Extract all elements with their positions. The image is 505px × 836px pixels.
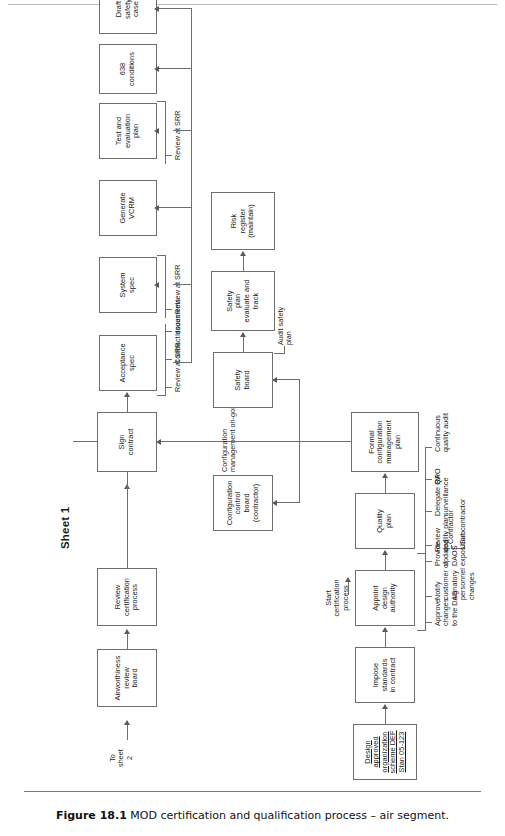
edge-airworthiness-to-reviewcert (127, 633, 128, 649)
node-label: Acceptance spec (119, 343, 136, 382)
edge-formalcm-bus-right (299, 380, 300, 442)
node-draft-safety-case[interactable]: Draft safety case (99, 0, 157, 34)
node-638-conditions[interactable]: 638 conditions (99, 44, 157, 94)
node-generate-vcrm[interactable]: Generate VCRM (99, 180, 157, 236)
arrowhead (124, 720, 130, 725)
node-label: Generate VCRM (119, 192, 136, 223)
tick-review-quality-plan (425, 545, 432, 546)
annotation-issues: Issues (174, 315, 182, 336)
node-label: 638 conditions (119, 52, 136, 86)
node-review-certification-process[interactable]: Review certification process (97, 568, 157, 626)
tick-review-srr-1 (165, 387, 172, 388)
annotation-review-at-srr-2: Review at SRR (174, 265, 182, 314)
edge-bus-to-safetyboard (277, 379, 300, 380)
bracket-system-spec-stub (157, 255, 166, 256)
figure-caption-text: MOD certification and qualification proc… (130, 809, 449, 822)
node-label: Quality plan (376, 509, 393, 532)
node-appoint-design-authority[interactable]: Appoint design authority (355, 570, 415, 626)
arrowhead (124, 392, 130, 397)
node-label: System spec (119, 273, 136, 298)
route-up-draft-safety (159, 8, 192, 9)
bracket-acceptance-stub (157, 395, 166, 396)
route-acceptance-down (173, 362, 192, 363)
tick-approve-changes (425, 622, 432, 623)
arrowhead (154, 66, 159, 72)
node-quality-plan[interactable]: Quality plan (355, 493, 415, 549)
node-acceptance-spec[interactable]: Acceptance spec (99, 335, 157, 391)
edge-design-to-impose (385, 708, 386, 724)
leader-audit-safety-plan-h (284, 346, 285, 354)
node-safety-plan-evaluate-track[interactable]: Safety plan evaluate and track (211, 271, 275, 331)
node-airworthiness-review-board[interactable]: Airworthiness review board (97, 649, 157, 707)
node-label: Draft safety case (115, 0, 141, 19)
node-label: Configuration control board (contractor) (226, 481, 260, 526)
node-label: Sign contract (118, 429, 135, 456)
node-label: Review certification process (114, 578, 140, 616)
figure-number: Figure 18.1 (56, 809, 127, 822)
node-system-spec[interactable]: System spec (99, 257, 157, 313)
node-label: Test and evaluation plan (115, 114, 141, 148)
tick-delegate-qa (425, 511, 432, 512)
annotation-to-sheet-2: To sheet 2 (109, 738, 134, 778)
node-label: Risk register (maintain) (230, 204, 256, 237)
bracket-quality-notes (425, 448, 426, 554)
node-test-evaluation-plan[interactable]: Test and evaluation plan (99, 103, 157, 159)
edge-safetyplan-to-riskregister (243, 255, 244, 271)
route-vcrm-to-test (191, 130, 192, 208)
edge-appoint-to-quality (385, 554, 386, 570)
node-label: Formal configuration management plan (368, 420, 402, 464)
annotation-audit-safety-plan: Audit safety plan (277, 285, 294, 345)
route-638-to-draft (191, 9, 192, 69)
annotation-review-at-srr-3: Review at SRR (174, 111, 182, 160)
node-label: Impose standards in contract (372, 658, 398, 693)
node-label: Design approved organization scheme DEF … (364, 730, 407, 773)
arrowhead (382, 550, 388, 555)
node-configuration-control-board[interactable]: Configuration control board (contractor) (213, 475, 273, 531)
edge-reviewcert-line (127, 472, 128, 568)
bracket-test-eval-stub (157, 101, 166, 102)
leader-start-cert (348, 581, 349, 595)
node-label: Airworthiness review board (114, 656, 140, 701)
route-up-test-eval (173, 130, 192, 131)
arrowhead (154, 128, 159, 134)
tick-continuous-audit (425, 447, 432, 448)
sheet-label: Sheet 1 (59, 507, 71, 549)
route-acceptance-to-system (191, 285, 192, 363)
edge-formalcm-bus-left (299, 442, 300, 503)
node-design-approved-organization[interactable]: Design approved organization scheme DEF … (353, 724, 417, 780)
annotation-provide-daos-exposition: Provide updated DAOS exposition (434, 526, 468, 566)
tick-rpo (425, 479, 432, 480)
route-up-vcrm (159, 207, 192, 208)
arrowhead (382, 627, 388, 632)
node-impose-standards[interactable]: Impose standards in contract (355, 647, 415, 703)
edge-bus-to-ccboard (277, 502, 300, 503)
edge-formalcm-bus-vertical (299, 441, 351, 442)
tick-notify-customer (425, 596, 432, 597)
node-sign-contract[interactable]: Sign contract (97, 412, 157, 472)
edge-safetyboard-to-safetyplan (243, 336, 244, 352)
flowchart-canvas: Sheet 1 Design approved organization sch… (53, 12, 453, 802)
node-formal-configuration-management-plan[interactable]: Formal configuration management plan (351, 412, 419, 472)
tick-review-srr-3 (165, 155, 172, 156)
route-up-system-spec (173, 284, 192, 285)
bracket-das-left-stub (417, 630, 426, 631)
page-top-rule (8, 4, 497, 5)
node-label: Appoint design authority (372, 584, 398, 613)
bracket-acceptance-notes (165, 324, 166, 396)
arrowhead (154, 6, 159, 12)
edge-quality-to-formal-cm (385, 477, 386, 493)
tick-issues (165, 331, 172, 332)
edge-sign-to-acceptance (127, 396, 128, 412)
arrowhead (154, 205, 159, 211)
leader-audit-safety-plan-v (274, 353, 284, 354)
arrowhead (240, 332, 246, 337)
tick-contract-documents (165, 359, 172, 360)
node-label: Safety board (234, 369, 251, 390)
figure-caption: Figure 18.1 MOD certification and qualif… (0, 809, 505, 822)
node-risk-register[interactable]: Risk register (maintain) (211, 192, 275, 250)
arrowhead (240, 251, 246, 256)
node-safety-board[interactable]: Safety board (213, 352, 273, 408)
tick-review-srr-2 (165, 309, 172, 310)
edge-impose-to-appoint (385, 631, 386, 647)
node-label: Safety plan evaluate and track (226, 280, 260, 323)
